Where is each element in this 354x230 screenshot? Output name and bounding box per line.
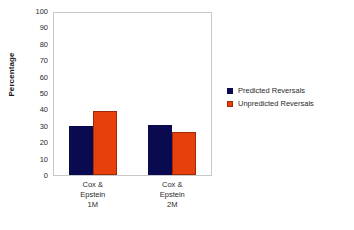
chart-legend: Predicted ReversalsUnpredicted Reversals bbox=[227, 84, 314, 110]
plot-area bbox=[53, 12, 212, 176]
y-axis-tick-label: 100 bbox=[22, 8, 48, 16]
y-axis-tick-label: 20 bbox=[22, 139, 48, 147]
x-axis-category-label-line: Cox & bbox=[53, 180, 133, 190]
y-axis-tick-labels: 1009080706050403020100 bbox=[22, 12, 48, 176]
y-axis-tick-label: 70 bbox=[22, 57, 48, 65]
x-axis-category-labels: Cox &Epstein1MCox &Epstein2M bbox=[53, 180, 212, 210]
y-axis-tick-label: 30 bbox=[22, 123, 48, 131]
bar bbox=[69, 126, 93, 175]
legend-color-swatch-icon bbox=[227, 88, 233, 94]
y-axis-tick-label: 0 bbox=[22, 172, 48, 180]
x-axis-category-label: Cox &Epstein1M bbox=[53, 180, 133, 210]
x-axis-category-label-line: Epstein bbox=[53, 190, 133, 200]
x-axis-category-label-line: Cox & bbox=[133, 180, 213, 190]
bar-chart: Percentage 1009080706050403020100 Cox &E… bbox=[0, 0, 354, 230]
bar bbox=[148, 125, 172, 175]
legend-item-label: Predicted Reversals bbox=[238, 86, 305, 95]
x-axis-category-label-line: Epstein bbox=[133, 190, 213, 200]
y-axis-tick-label: 80 bbox=[22, 41, 48, 49]
bars-container bbox=[54, 13, 211, 175]
y-axis-tick-label: 90 bbox=[22, 24, 48, 32]
y-axis-tick-label: 60 bbox=[22, 74, 48, 82]
legend-color-swatch-icon bbox=[227, 101, 233, 107]
y-axis-tick-label: 10 bbox=[22, 156, 48, 164]
y-axis-tick-label: 40 bbox=[22, 106, 48, 114]
legend-item[interactable]: Unpredicted Reversals bbox=[227, 97, 314, 110]
x-axis-category-label-line: 1M bbox=[53, 200, 133, 210]
bar-group bbox=[54, 13, 133, 175]
legend-item[interactable]: Predicted Reversals bbox=[227, 84, 314, 97]
x-axis-category-label-line: 2M bbox=[133, 200, 213, 210]
x-axis-category-label: Cox &Epstein2M bbox=[133, 180, 213, 210]
bar-group bbox=[133, 13, 212, 175]
y-axis-title: Percentage bbox=[7, 40, 16, 110]
y-axis-tick-label: 50 bbox=[22, 90, 48, 98]
legend-item-label: Unpredicted Reversals bbox=[238, 99, 314, 108]
bar bbox=[172, 132, 196, 175]
bar bbox=[93, 111, 117, 175]
